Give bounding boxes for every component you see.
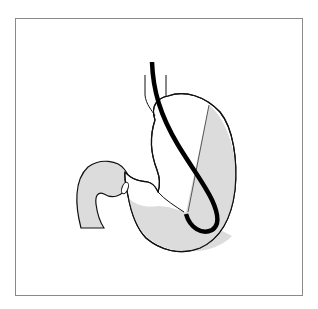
stomach-endoscope-diagram — [0, 0, 318, 309]
